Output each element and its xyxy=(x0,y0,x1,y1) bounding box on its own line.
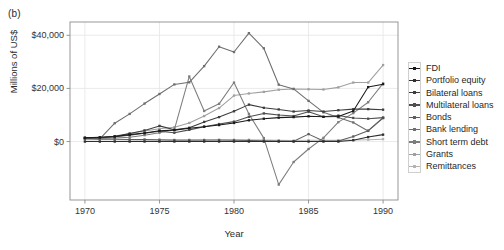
legend-item-fdi[interactable]: FDI xyxy=(408,62,500,74)
legend-item-label: Remittances xyxy=(421,160,476,172)
legend-item-label: FDI xyxy=(421,62,441,74)
chart-legend: FDIPortfolio equityBilateral loansMultil… xyxy=(408,62,500,173)
legend-line-swatch-icon xyxy=(408,87,421,99)
legend-item-label: Bilateral loans xyxy=(421,87,483,99)
legend-line-swatch-icon xyxy=(408,136,421,148)
legend-line-swatch-icon xyxy=(408,148,421,160)
figure-panel-b: (b) Millions of US$ Year $0$20,000$40,00… xyxy=(0,0,504,250)
legend-item-label: Bank lending xyxy=(421,123,478,135)
legend-item-label: Short term debt xyxy=(421,136,488,148)
legend-item-portfolio-equity[interactable]: Portfolio equity xyxy=(408,74,500,86)
legend-item-label: Multilateral loans xyxy=(421,99,494,111)
legend-item-label: Portfolio equity xyxy=(421,74,486,86)
legend-item-grants[interactable]: Grants xyxy=(408,148,500,160)
legend-line-swatch-icon xyxy=(408,160,421,172)
legend-item-bonds[interactable]: Bonds xyxy=(408,111,500,123)
legend-item-remittances[interactable]: Remittances xyxy=(408,160,500,172)
legend-line-swatch-icon xyxy=(408,123,421,135)
legend-item-multilateral-loans[interactable]: Multilateral loans xyxy=(408,99,500,111)
legend-item-bilateral-loans[interactable]: Bilateral loans xyxy=(408,87,500,99)
legend-rows: FDIPortfolio equityBilateral loansMultil… xyxy=(408,62,500,173)
legend-item-short-term-debt[interactable]: Short term debt xyxy=(408,136,500,148)
legend-item-label: Bonds xyxy=(421,111,452,123)
legend-line-swatch-icon xyxy=(408,62,421,74)
legend-item-bank-lending[interactable]: Bank lending xyxy=(408,123,500,135)
legend-item-label: Grants xyxy=(421,148,453,160)
legend-line-swatch-icon xyxy=(408,111,421,123)
legend-line-swatch-icon xyxy=(408,99,421,111)
legend-line-swatch-icon xyxy=(408,74,421,86)
